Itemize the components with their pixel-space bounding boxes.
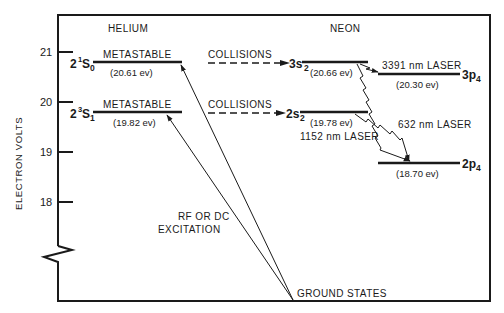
svg-text:4: 4 (476, 163, 481, 173)
neon-level-2p4: (18.70 ev) 2p 4 (378, 157, 481, 179)
y-axis-ticks (58, 52, 73, 202)
svg-text:(19.78 ev): (19.78 ev) (310, 117, 353, 128)
svg-text:2: 2 (70, 107, 77, 121)
helium-neon-energy-diagram: 21 20 19 18 ELECTRON VOLTS HELIUM NEON M… (0, 0, 504, 313)
neon-level-3s2: 3s 2 (20.66 ev) (289, 57, 368, 78)
tick-label-19: 19 (40, 146, 52, 158)
svg-text:0: 0 (90, 63, 95, 73)
laser-3391nm: 3391 nm LASER (360, 60, 462, 72)
svg-text:1: 1 (90, 113, 95, 123)
svg-text:2: 2 (300, 113, 305, 123)
svg-text:2: 2 (70, 57, 77, 71)
svg-text:632 nm LASER: 632 nm LASER (398, 119, 472, 130)
svg-text:METASTABLE: METASTABLE (103, 49, 172, 60)
tick-label-20: 20 (40, 96, 52, 108)
collision-transfer-lower: COLLISIONS (208, 99, 286, 116)
helium-level-2-3s1: METASTABLE (19.82 ev) 2 3 S 1 (70, 99, 182, 128)
tick-label-21: 21 (40, 46, 52, 58)
svg-text:2p: 2p (462, 157, 476, 171)
svg-text:(18.70 ev): (18.70 ev) (396, 168, 439, 179)
y-axis-title: ELECTRON VOLTS (13, 117, 24, 210)
svg-text:COLLISIONS: COLLISIONS (208, 99, 272, 110)
svg-text:4: 4 (476, 74, 481, 84)
svg-text:3s: 3s (289, 57, 303, 71)
helium-heading: HELIUM (108, 23, 148, 34)
helium-level-2-1s0: METASTABLE (20.61 ev) 2 1 S 0 (70, 49, 182, 78)
svg-text:METASTABLE: METASTABLE (103, 99, 172, 110)
ground-states-label: GROUND STATES (297, 288, 387, 299)
svg-text:2s: 2s (286, 107, 300, 121)
svg-text:COLLISIONS: COLLISIONS (208, 49, 272, 60)
svg-text:S: S (82, 107, 90, 121)
svg-text:2: 2 (304, 63, 309, 73)
svg-text:(20.61 ev): (20.61 ev) (110, 67, 153, 78)
neon-level-3p4: (20.30 ev) 3p 4 (378, 68, 481, 90)
svg-text:3p: 3p (462, 68, 476, 82)
tick-label-18: 18 (40, 196, 52, 208)
svg-text:1152 nm LASER: 1152 nm LASER (300, 131, 379, 142)
svg-text:(20.66 ev): (20.66 ev) (310, 67, 353, 78)
excitation-label-line1: RF OR DC (178, 211, 230, 222)
svg-text:3391 nm LASER: 3391 nm LASER (382, 60, 462, 71)
svg-text:(19.82 ev): (19.82 ev) (113, 117, 156, 128)
svg-text:S: S (82, 57, 90, 71)
excitation-label-line2: EXCITATION (158, 224, 221, 235)
collision-transfer-upper: COLLISIONS (208, 49, 290, 66)
neon-heading: NEON (330, 23, 361, 34)
neon-level-2s2: 2s 2 (19.78 ev) (286, 107, 368, 128)
svg-text:(20.30 ev): (20.30 ev) (396, 79, 439, 90)
